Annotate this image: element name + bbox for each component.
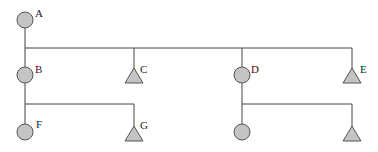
node-i-triangle-icon: [343, 126, 361, 141]
node-e-triangle-icon: [343, 68, 361, 83]
label-c: C: [140, 63, 147, 75]
label-g: G: [140, 119, 148, 131]
label-e: E: [360, 63, 367, 75]
label-b: B: [35, 63, 42, 75]
node-f-circle-icon: [17, 124, 33, 140]
nodes: [17, 12, 361, 141]
label-f: F: [36, 118, 42, 130]
node-a-circle-icon: [17, 12, 33, 28]
connector-lines: [25, 28, 352, 127]
tree-diagram: A B C D E F G: [0, 0, 378, 152]
node-labels: A B C D E F G: [35, 7, 367, 131]
node-h-circle-icon: [234, 124, 250, 140]
node-b-circle-icon: [17, 67, 33, 83]
node-d-circle-icon: [234, 67, 250, 83]
label-a: A: [35, 7, 43, 19]
label-d: D: [251, 63, 259, 75]
